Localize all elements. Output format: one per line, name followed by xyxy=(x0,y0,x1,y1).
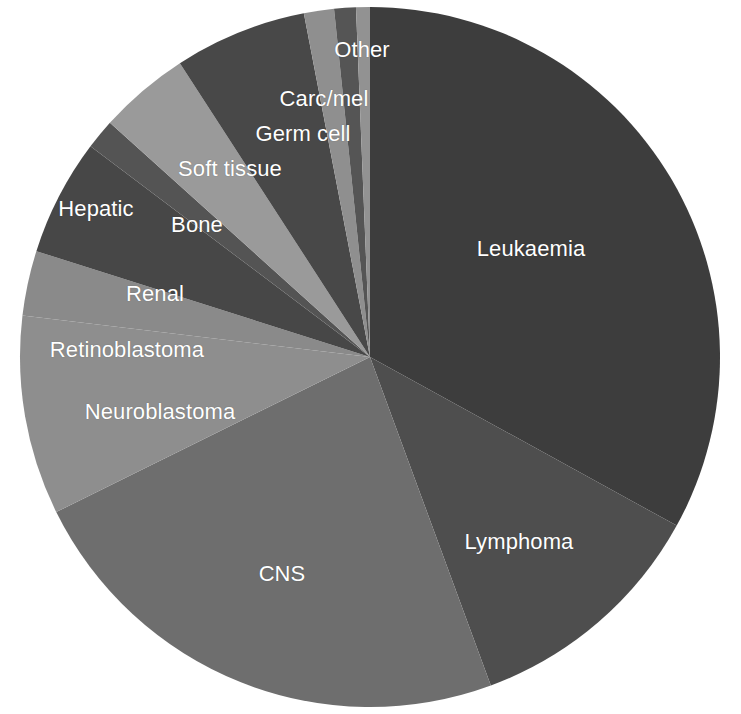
pie-chart-figure: LeukaemiaLymphomaCNSNeuroblastomaRetinob… xyxy=(0,0,741,714)
pie-slice-group xyxy=(20,7,720,707)
pie-chart-svg xyxy=(0,0,741,714)
